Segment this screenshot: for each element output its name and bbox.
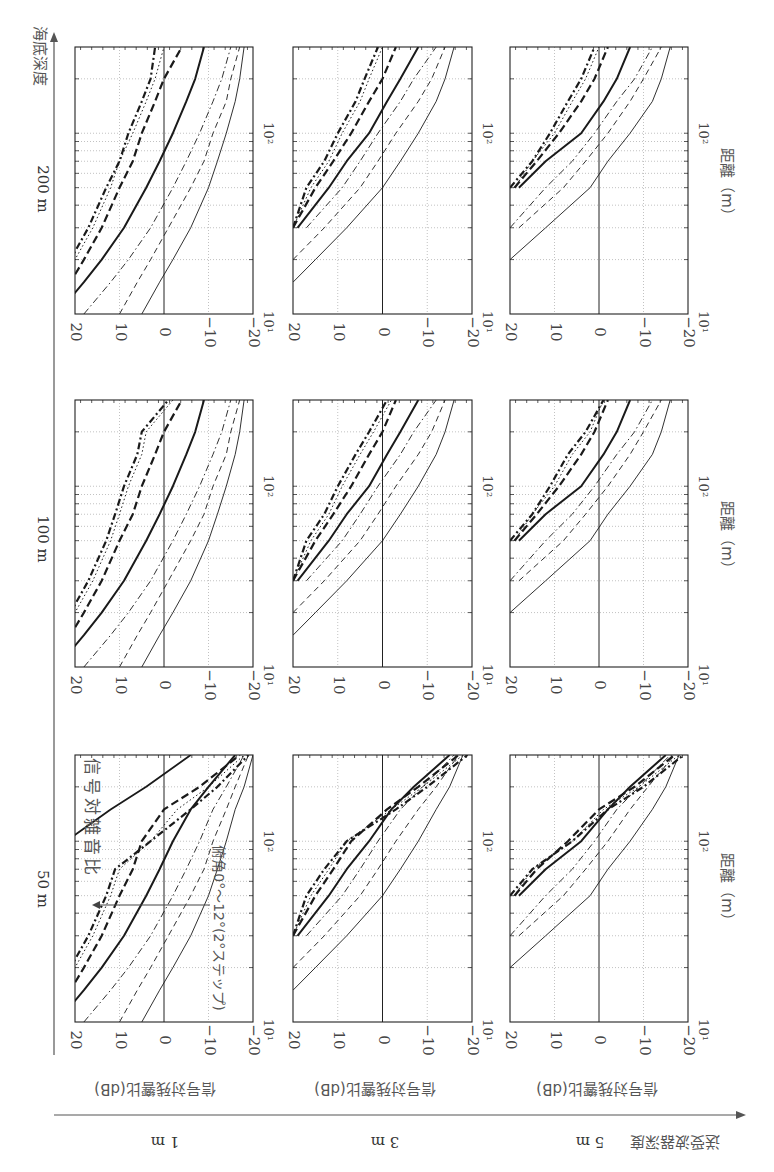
- seabed-axis-label: 海底深度: [31, 21, 52, 91]
- svg-text:−20: −20: [245, 1024, 263, 1056]
- svg-text:10¹: 10¹: [261, 664, 276, 686]
- svg-text:0: 0: [156, 680, 174, 690]
- series-line: [510, 400, 604, 541]
- svg-text:10²: 10²: [696, 830, 711, 852]
- svg-text:−20: −20: [245, 669, 263, 701]
- snr-annotation: 信号対雑音比: [81, 758, 106, 868]
- series-line: [57, 400, 204, 667]
- series-line: [39, 400, 173, 667]
- series-line: [519, 47, 630, 188]
- series-line: [298, 47, 419, 228]
- series-line: [519, 47, 661, 228]
- svg-text:10²: 10²: [261, 122, 276, 144]
- panel-200m-3m: 20100−10−2010¹10²: [285, 47, 495, 348]
- panel-100m-3m: 20100−10−2010¹10²: [285, 400, 495, 701]
- svg-text:0: 0: [156, 327, 174, 337]
- svg-text:−20: −20: [680, 316, 698, 348]
- series-line: [39, 47, 155, 314]
- svg-text:0: 0: [375, 1035, 393, 1045]
- svg-text:10¹: 10¹: [480, 664, 495, 686]
- panel-50m-5m: 20100−10−2010¹10²: [502, 755, 711, 1056]
- svg-text:10¹: 10¹: [696, 664, 711, 686]
- series-line: [293, 47, 396, 228]
- svg-text:10: 10: [547, 322, 565, 341]
- svg-text:−10: −10: [419, 316, 437, 348]
- svg-text:10: 10: [112, 322, 130, 341]
- angle-arrow-icon: [92, 901, 210, 909]
- series-line: [519, 400, 630, 541]
- series-line: [57, 47, 204, 314]
- panel-200m-1m: 20100−10−2010¹10²: [39, 47, 275, 348]
- series-line: [120, 400, 240, 667]
- series-line: [84, 47, 231, 314]
- series-line: [510, 47, 595, 188]
- svg-text:10¹: 10¹: [261, 1019, 276, 1041]
- series-line: [510, 755, 670, 936]
- svg-text:10: 10: [112, 675, 130, 694]
- svg-text:−10: −10: [201, 316, 219, 348]
- svg-text:−20: −20: [680, 1024, 698, 1056]
- svg-text:10²: 10²: [480, 122, 495, 144]
- svg-text:−10: −10: [201, 1024, 219, 1056]
- series-line: [298, 755, 450, 936]
- transducer-depth-5: 5 m: [570, 1133, 610, 1151]
- x-axis-label-row2: 距離（m）: [718, 494, 739, 584]
- series-line: [293, 755, 463, 990]
- svg-text:10: 10: [112, 1030, 130, 1049]
- transducer-depth-1: 1 m: [145, 1133, 185, 1151]
- x-axis-label-row3: 距離（m）: [718, 846, 739, 936]
- transducer-depth-3: 3 m: [365, 1133, 405, 1151]
- svg-text:20: 20: [67, 675, 85, 694]
- series-line: [298, 400, 419, 581]
- svg-text:0: 0: [375, 680, 393, 690]
- figure-canvas: 20100−10−2010¹10²20100−10−2010¹10²20100−…: [0, 0, 774, 1172]
- svg-text:20: 20: [502, 322, 520, 341]
- svg-text:−20: −20: [680, 669, 698, 701]
- svg-text:20: 20: [285, 1030, 303, 1049]
- svg-text:−20: −20: [464, 1024, 482, 1056]
- svg-text:10²: 10²: [480, 830, 495, 852]
- series-line: [39, 47, 164, 314]
- svg-text:10¹: 10¹: [696, 311, 711, 333]
- svg-text:20: 20: [67, 322, 85, 341]
- svg-text:20: 20: [67, 1030, 85, 1049]
- svg-text:10¹: 10¹: [696, 1019, 711, 1041]
- panel-50m-3m: 20100−10−2010¹10²: [285, 755, 495, 1056]
- svg-text:−10: −10: [636, 669, 654, 701]
- svg-text:10: 10: [547, 1030, 565, 1049]
- series-line: [48, 47, 182, 314]
- svg-text:−20: −20: [464, 669, 482, 701]
- panel-grid: 20100−10−2010¹10²20100−10−2010¹10²20100−…: [31, 47, 711, 1056]
- svg-text:0: 0: [591, 327, 609, 337]
- svg-text:−10: −10: [201, 669, 219, 701]
- svg-text:10¹: 10¹: [261, 311, 276, 333]
- svg-text:10: 10: [547, 675, 565, 694]
- x-axis-label-row1: 距離（m）: [718, 141, 739, 231]
- svg-text:0: 0: [156, 1035, 174, 1045]
- angle-annotation: 俯角0°～12°(2°ステップ): [210, 833, 230, 1023]
- svg-text:10²: 10²: [261, 475, 276, 497]
- seabed-depth-200: 200 m: [34, 159, 52, 219]
- y-axis-label-col3: 信号対残響比(dB): [522, 1080, 672, 1101]
- panel-100m-5m: 20100−10−2010¹10²: [502, 400, 711, 701]
- series-line: [48, 400, 182, 667]
- svg-text:10²: 10²: [696, 122, 711, 144]
- svg-text:−10: −10: [636, 316, 654, 348]
- panel-100m-1m: 20100−10−2010¹10²: [39, 400, 275, 701]
- y-axis-label-col2: 信号対残響比(dB): [300, 1080, 450, 1101]
- panel-200m-5m: 20100−10−2010¹10²: [502, 47, 711, 348]
- svg-text:10²: 10²: [696, 475, 711, 497]
- transducer-axis-label: 送受波器深度: [625, 1133, 725, 1154]
- svg-text:−10: −10: [419, 669, 437, 701]
- svg-text:10: 10: [330, 1030, 348, 1049]
- y-axis-label-col1: 信号対残響比(dB): [80, 1080, 230, 1101]
- series-line: [519, 400, 661, 581]
- series-line: [510, 47, 652, 228]
- svg-text:−10: −10: [636, 1024, 654, 1056]
- svg-text:20: 20: [502, 675, 520, 694]
- series-line: [510, 400, 652, 581]
- series-line: [120, 47, 240, 314]
- svg-text:10: 10: [330, 675, 348, 694]
- svg-text:10¹: 10¹: [480, 1019, 495, 1041]
- series-line: [84, 400, 231, 667]
